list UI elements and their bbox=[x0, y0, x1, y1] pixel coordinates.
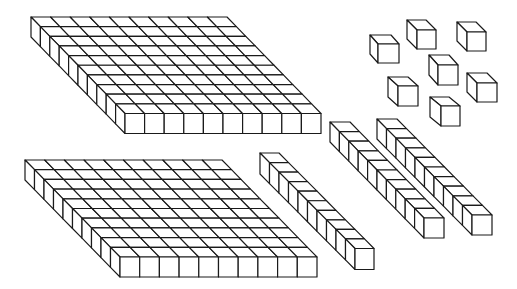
cube-front-face bbox=[145, 114, 165, 134]
cube-front-face bbox=[159, 257, 179, 277]
cube-front-face bbox=[219, 257, 239, 277]
cube-front-face bbox=[164, 114, 184, 134]
cube-front-face bbox=[238, 257, 258, 277]
cube-front-face bbox=[140, 257, 160, 277]
unit-5-unit-block bbox=[388, 77, 418, 106]
cube-front-face bbox=[398, 86, 418, 106]
cube-front-face bbox=[438, 65, 458, 85]
cube-front-face bbox=[262, 114, 282, 134]
cube-front-face bbox=[477, 83, 497, 102]
cube-front-face bbox=[184, 114, 204, 134]
cube-front-face bbox=[297, 257, 317, 277]
cube-front-face bbox=[424, 218, 444, 238]
cube-front-face bbox=[301, 114, 321, 134]
cube-front-face bbox=[282, 114, 302, 134]
cube-front-face bbox=[472, 215, 492, 235]
cube-front-face bbox=[125, 114, 145, 134]
unit-7-unit-block bbox=[430, 97, 460, 126]
base-ten-blocks-diagram: Base-ten blocks 2 flats (hundreds), 3 ro… bbox=[0, 0, 517, 289]
cube-front-face bbox=[243, 114, 263, 134]
cube-front-face bbox=[355, 249, 374, 270]
cube-front-face bbox=[467, 32, 486, 51]
cube-front-face bbox=[278, 257, 298, 277]
cube-front-face bbox=[120, 257, 140, 277]
cube-front-face bbox=[199, 257, 219, 277]
cube-front-face bbox=[223, 114, 243, 134]
unit-2-unit-block bbox=[407, 20, 436, 49]
unit-6-unit-block bbox=[467, 73, 497, 102]
blocks-illustration bbox=[0, 0, 517, 289]
unit-3-unit-block bbox=[457, 22, 486, 51]
flat-1-flat-block bbox=[31, 17, 321, 134]
cube-front-face bbox=[179, 257, 199, 277]
unit-4-unit-block bbox=[429, 55, 458, 85]
cube-front-face bbox=[417, 30, 436, 49]
cube-front-face bbox=[203, 114, 223, 134]
cube-front-face bbox=[258, 257, 278, 277]
cube-front-face bbox=[441, 106, 460, 126]
unit-1-unit-block bbox=[370, 35, 399, 63]
cube-front-face bbox=[378, 44, 399, 63]
